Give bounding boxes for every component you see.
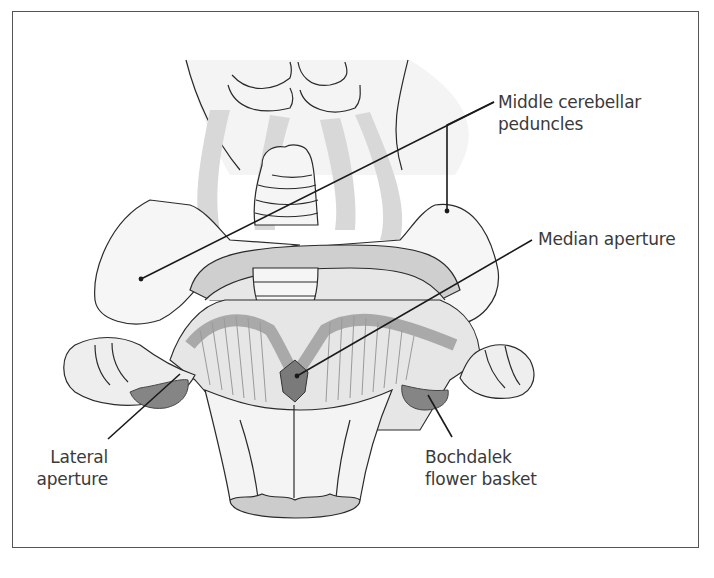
- label-bochdalek-flower-basket: Bochdalek flower basket: [425, 446, 537, 490]
- vermis-folia-superior: [254, 145, 318, 225]
- label-median-aperture: Median aperture: [538, 228, 675, 250]
- brainstem-illustration: [0, 0, 714, 578]
- label-lateral-aperture: Lateral aperture: [30, 446, 108, 490]
- label-middle-cerebellar-peduncles: Middle cerebellar peduncles: [498, 91, 641, 135]
